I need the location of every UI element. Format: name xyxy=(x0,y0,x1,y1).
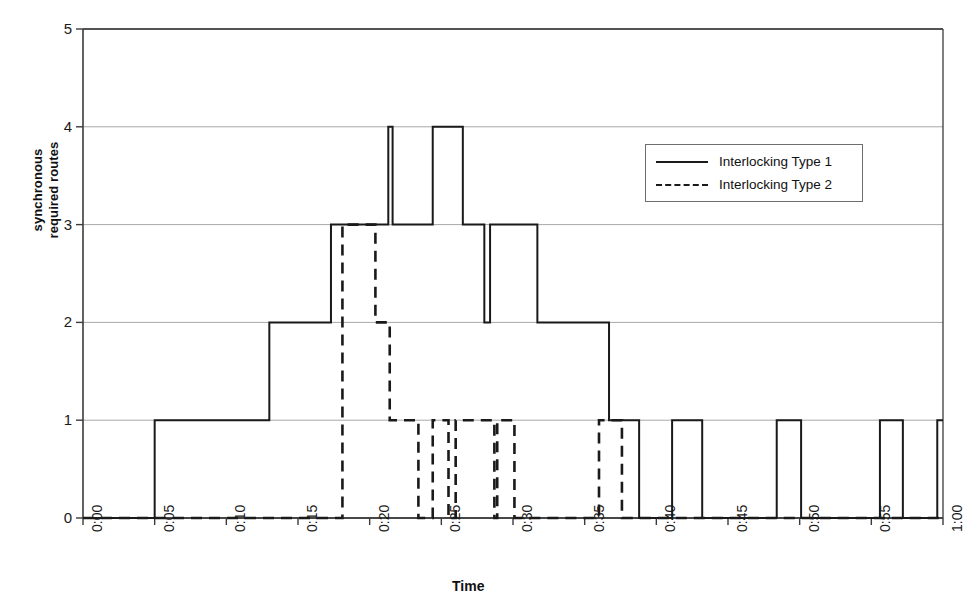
x-tick-label-3: 0:15 xyxy=(304,505,320,532)
x-tick-label-9: 0:45 xyxy=(734,505,750,532)
x-tick-label-7: 0:35 xyxy=(591,505,607,532)
chart-container: synchronous required routes 012345 0:000… xyxy=(0,0,973,608)
legend-line-solid-icon xyxy=(654,157,710,167)
x-tick-label-4: 0:20 xyxy=(376,505,392,532)
x-tick-label-5: 0:25 xyxy=(447,505,463,532)
legend-label-type-2: Interlocking Type 2 xyxy=(719,177,832,192)
x-tick-label-0: 0:00 xyxy=(89,505,105,532)
x-tick-label-8: 0:40 xyxy=(662,505,678,532)
x-tick-label-1: 0:05 xyxy=(161,505,177,532)
legend-label-type-1: Interlocking Type 1 xyxy=(719,154,832,169)
x-tick-label-6: 0:30 xyxy=(519,505,535,532)
legend-line-dashed-icon xyxy=(654,180,710,190)
x-axis-title: Time xyxy=(452,578,484,594)
x-tick-label-12: 1:00 xyxy=(949,505,965,532)
x-tick-label-2: 0:10 xyxy=(232,505,248,532)
x-tick-label-11: 0:55 xyxy=(877,505,893,532)
x-axis-tick-labels: 0:000:050:100:150:200:250:300:350:400:45… xyxy=(0,0,973,608)
legend: Interlocking Type 1 Interlocking Type 2 xyxy=(645,144,863,202)
legend-item-type-2: Interlocking Type 2 xyxy=(654,173,854,196)
x-tick-label-10: 0:50 xyxy=(806,505,822,532)
legend-item-type-1: Interlocking Type 1 xyxy=(654,150,854,173)
